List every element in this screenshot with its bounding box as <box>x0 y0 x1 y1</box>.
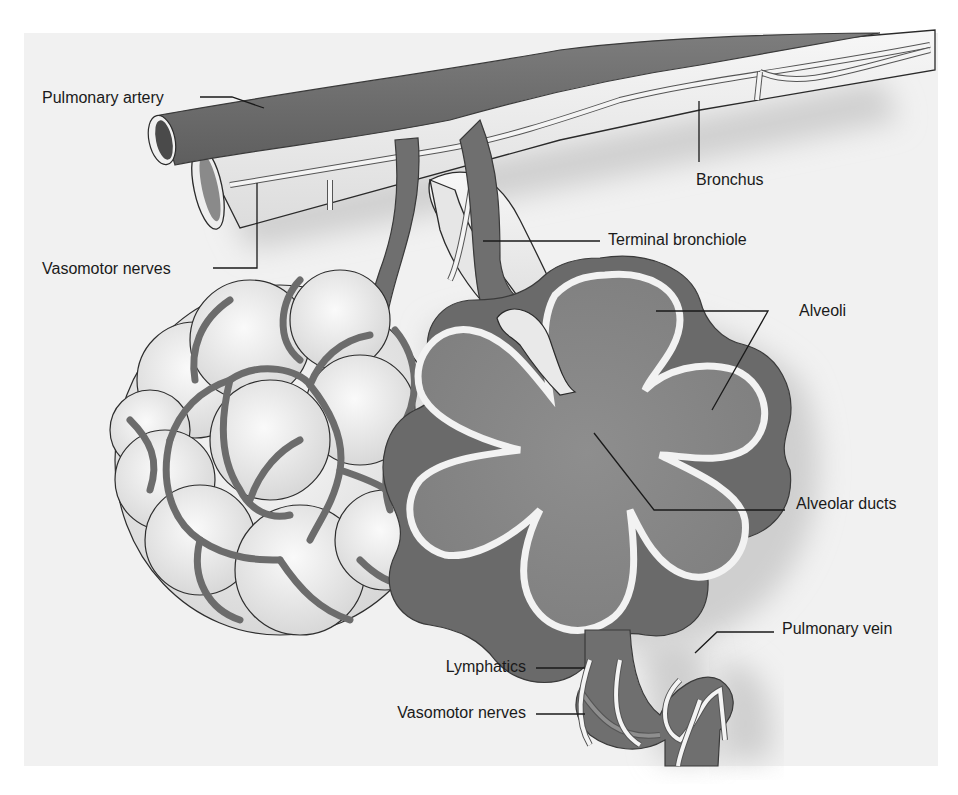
label-vasomotor-nerves-lower: Vasomotor nerves <box>397 704 526 721</box>
label-vasomotor-nerves-upper: Vasomotor nerves <box>42 260 171 277</box>
label-pulmonary-vein: Pulmonary vein <box>782 620 892 637</box>
label-pulmonary-artery: Pulmonary artery <box>42 89 164 106</box>
label-lymphatics: Lymphatics <box>446 658 526 675</box>
label-alveolar-ducts: Alveolar ducts <box>796 495 897 512</box>
label-terminal-bronchiole: Terminal bronchiole <box>608 231 747 248</box>
alveoli-anatomy-diagram: Pulmonary artery Vasomotor nerves Bronch… <box>0 0 958 795</box>
label-alveoli: Alveoli <box>799 302 846 319</box>
label-bronchus: Bronchus <box>696 171 764 188</box>
